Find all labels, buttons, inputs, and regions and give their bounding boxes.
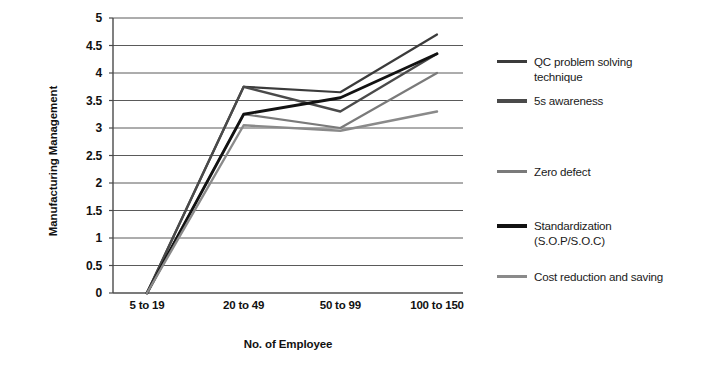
x-tick-label: 50 to 99 bbox=[285, 299, 395, 311]
legend-line-swatch bbox=[497, 99, 527, 103]
legend-item[interactable]: QC problem solving technique bbox=[497, 54, 632, 84]
line-chart: Manufacturing Management 00.511.522.533.… bbox=[0, 0, 728, 372]
legend-item[interactable]: Cost reduction and saving bbox=[497, 269, 663, 284]
x-axis-title: No. of Employee bbox=[113, 338, 463, 350]
legend-item[interactable]: 5s awareness bbox=[497, 93, 603, 108]
legend-item-label: 5s awareness bbox=[534, 93, 603, 108]
legend-line-swatch bbox=[497, 170, 527, 173]
legend-item-label: Zero defect bbox=[534, 164, 590, 179]
x-axis-tick-labels: 5 to 1920 to 4950 to 99100 to 150 bbox=[113, 299, 463, 319]
x-tick-label: 100 to 150 bbox=[382, 299, 492, 311]
legend-line-swatch bbox=[497, 60, 527, 63]
legend-item[interactable]: Zero defect bbox=[497, 164, 590, 179]
legend-item-label: QC problem solving technique bbox=[534, 54, 632, 84]
x-tick-label: 5 to 19 bbox=[92, 299, 202, 311]
legend-item-label: Standardization (S.O.P/S.O.C) bbox=[534, 218, 612, 248]
legend-line-swatch bbox=[497, 224, 527, 228]
legend-item-label: Cost reduction and saving bbox=[534, 269, 663, 284]
x-tick-label: 20 to 49 bbox=[189, 299, 299, 311]
legend-item[interactable]: Standardization (S.O.P/S.O.C) bbox=[497, 218, 612, 248]
legend-line-swatch bbox=[497, 275, 527, 278]
